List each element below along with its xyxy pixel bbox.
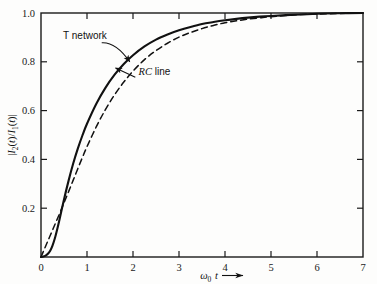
x-tick-label: 4 (222, 262, 228, 273)
y-tick-label: 0.6 (22, 105, 35, 116)
x-tick-label: 3 (176, 262, 181, 273)
annotation-t-network: T network (63, 30, 108, 41)
y-tick-label: 0.8 (22, 56, 35, 67)
y-tick-label: 1.0 (22, 8, 35, 19)
chart-svg: 01234567 0.20.40.60.81.0 T network (0, 0, 377, 284)
x-tick-label: 7 (360, 262, 365, 273)
figure-container: 01234567 0.20.40.60.81.0 T network (0, 0, 377, 284)
x-tick-label: 2 (130, 262, 135, 273)
x-tick-label: 5 (268, 262, 273, 273)
x-tick-label: 6 (314, 262, 319, 273)
annotation-rc-line: RC line (138, 66, 171, 77)
y-tick-label: 0.2 (22, 203, 35, 214)
x-tick-label: 1 (84, 262, 89, 273)
figure-background (0, 0, 377, 284)
x-tick-label: 0 (38, 262, 43, 273)
y-tick-label: 0.4 (22, 154, 36, 165)
